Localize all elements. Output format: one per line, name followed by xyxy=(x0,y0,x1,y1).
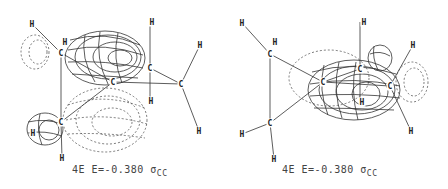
atom-label-h: H xyxy=(30,20,35,29)
atom-label-c: C xyxy=(321,78,326,87)
atom-label-h: H xyxy=(60,154,65,163)
orbital-label: 4E xyxy=(72,164,85,175)
atom-label-h: H xyxy=(360,98,365,107)
atom-label-h: H xyxy=(409,127,414,136)
symmetry-subscript: CC xyxy=(367,169,378,178)
symmetry-subscript: CC xyxy=(157,169,168,178)
atom-label-h: H xyxy=(198,41,203,50)
atom-label-c: C xyxy=(388,82,393,91)
orbital-drawing-left: HHCHHCCCHCHHH xyxy=(0,0,224,189)
atom-label-h: H xyxy=(240,19,245,28)
atom-label-h: H xyxy=(197,127,202,136)
atom-label-h: H xyxy=(31,129,36,138)
atom-label-c: C xyxy=(111,78,116,87)
atom-label-h: H xyxy=(63,38,68,47)
caption-right: 4E E=-0.380 σCC xyxy=(282,164,377,178)
atom-label-h: H xyxy=(272,155,277,164)
atom-label-c: C xyxy=(268,50,273,59)
atom-label-c: C xyxy=(59,49,64,58)
orbital-plot-left: HHCHHCCCHCHHH 4E E=-0.380 σCC xyxy=(0,0,224,189)
energy-label: E=-0.380 xyxy=(302,164,354,175)
orbital-drawing-right: HHCHCHCCHCHHH xyxy=(224,0,448,189)
orbital-plot-right: HHCHCHCCHCHHH 4E E=-0.380 σCC xyxy=(224,0,448,189)
atom-label-c: C xyxy=(179,80,184,89)
atom-label-c: C xyxy=(148,64,153,73)
atom-label-h: H xyxy=(150,18,155,27)
caption-left: 4E E=-0.380 σCC xyxy=(72,164,167,178)
atom-label-h: H xyxy=(149,97,154,106)
atom-label-h: H xyxy=(273,38,278,47)
atom-label-c: C xyxy=(358,65,363,74)
atom-label-h: H xyxy=(362,18,367,27)
atom-label-c: C xyxy=(268,119,273,128)
energy-label: E=-0.380 xyxy=(92,164,144,175)
orbital-label: 4E xyxy=(282,164,295,175)
atom-label-h: H xyxy=(240,130,245,139)
atom-label-h: H xyxy=(411,41,416,50)
atom-label-c: C xyxy=(59,118,64,127)
